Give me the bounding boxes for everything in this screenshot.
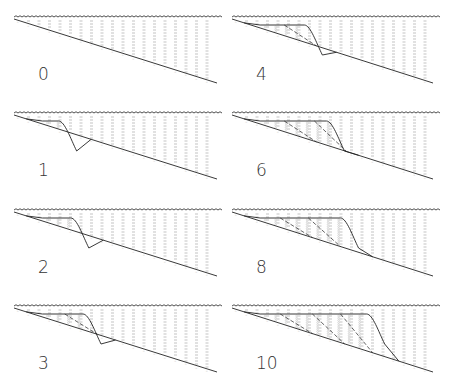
panel-stage-2: ~~~~~~~~~~~~~~~~~~~2 <box>14 209 222 277</box>
time-line <box>284 25 316 46</box>
stage-label: 2 <box>38 257 49 277</box>
stage-label: 4 <box>256 64 267 84</box>
sea-surface <box>232 16 440 17</box>
stage-label: 8 <box>256 257 267 277</box>
time-line <box>284 121 316 142</box>
stage-label: 10 <box>256 353 278 373</box>
sea-surface <box>232 305 440 306</box>
panel-stage-1: ~~~~~~~~~~~~~~~~~~~1 <box>14 112 222 180</box>
panel-stage-6: ~~~~~~~~~~~~~~~~~~~6 <box>232 112 440 181</box>
panel-stage-4: ~~~~~~~~~~~~~~~~~~~4 <box>232 16 440 85</box>
progradation-diagram: ~~~~~~~~~~~~~~~~~~~0~~~~~~~~~~~~~~~~~~~1… <box>0 0 450 387</box>
sea-surface <box>14 209 222 210</box>
sea-surface <box>14 305 222 306</box>
sea-surface <box>232 209 440 210</box>
panel-stage-0: ~~~~~~~~~~~~~~~~~~~0 <box>14 16 222 84</box>
sea-surface <box>232 112 440 113</box>
stage-label: 1 <box>38 160 49 180</box>
time-line <box>308 218 340 247</box>
sea-surface <box>14 112 222 113</box>
panel-stage-3: ~~~~~~~~~~~~~~~~~~~3 <box>14 305 222 373</box>
stage-label: 0 <box>38 64 49 84</box>
sea-surface <box>14 16 222 17</box>
time-line <box>341 314 373 353</box>
stage-label: 6 <box>256 160 267 180</box>
panel-stage-10: ~~~~~~~~~~~~~~~~~~~10 <box>232 305 440 374</box>
stage-label: 3 <box>38 353 49 373</box>
panel-stage-8: ~~~~~~~~~~~~~~~~~~~8 <box>232 209 440 278</box>
